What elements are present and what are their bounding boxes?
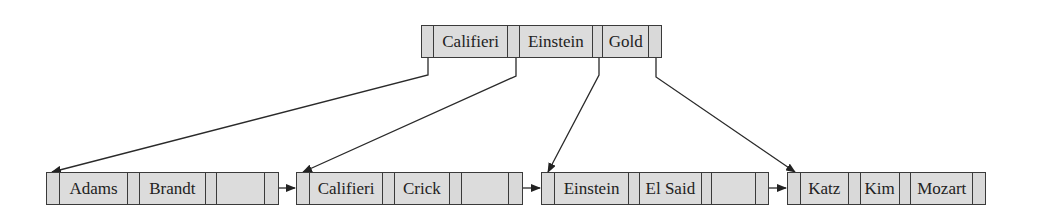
leaf-2-key-2: Crick bbox=[395, 173, 450, 204]
root-pointer-edge-2 bbox=[303, 50, 516, 172]
pointer-cell bbox=[206, 173, 217, 204]
pointer-cell bbox=[593, 26, 604, 57]
root-key-1: Califieri bbox=[434, 26, 508, 57]
leaf-1-key-2: Brandt bbox=[140, 173, 205, 204]
pointer-cell bbox=[788, 173, 801, 204]
b-plus-tree-diagram: Califieri Einstein Gold Adams Brandt Cal… bbox=[0, 0, 1038, 222]
leaf-node-3: Einstein El Said bbox=[541, 172, 769, 205]
leaf-node-1: Adams Brandt bbox=[46, 172, 279, 205]
root-key-3: Gold bbox=[603, 26, 649, 57]
pointer-cell bbox=[542, 173, 555, 204]
leaf-node-4: Katz Kim Mozart bbox=[787, 172, 986, 205]
root-pointer-edge-1 bbox=[52, 50, 428, 172]
leaf-3-key-2: El Said bbox=[640, 173, 701, 204]
pointer-cell bbox=[702, 173, 713, 204]
leaf-2-key-1: Califieri bbox=[310, 173, 383, 204]
next-pointer-cell bbox=[973, 173, 985, 204]
pointer-cell bbox=[649, 26, 661, 57]
leaf-3-key-1: Einstein bbox=[555, 173, 629, 204]
leaf-2-key-3 bbox=[462, 173, 510, 204]
pointer-cell bbox=[450, 173, 462, 204]
pointer-cell bbox=[297, 173, 310, 204]
pointer-cell bbox=[900, 173, 912, 204]
leaf-4-key-1: Katz bbox=[801, 173, 849, 204]
leaf-1-key-3 bbox=[217, 173, 266, 204]
leaf-4-key-2: Kim bbox=[861, 173, 900, 204]
leaf-3-key-3 bbox=[712, 173, 756, 204]
pointer-cell bbox=[422, 26, 434, 57]
leaf-1-key-1: Adams bbox=[60, 173, 128, 204]
root-node: Califieri Einstein Gold bbox=[421, 25, 662, 58]
leaf-4-key-3: Mozart bbox=[911, 173, 973, 204]
next-pointer-cell bbox=[509, 173, 522, 204]
pointer-cell bbox=[849, 173, 861, 204]
pointer-cell bbox=[47, 173, 60, 204]
root-pointer-edge-4 bbox=[656, 50, 795, 172]
next-pointer-cell bbox=[265, 173, 278, 204]
root-key-2: Einstein bbox=[520, 26, 592, 57]
leaf-node-2: Califieri Crick bbox=[296, 172, 523, 205]
pointer-cell bbox=[508, 26, 520, 57]
next-pointer-cell bbox=[756, 173, 768, 204]
root-pointer-edge-3 bbox=[548, 50, 599, 172]
pointer-cell bbox=[128, 173, 140, 204]
pointer-cell bbox=[383, 173, 395, 204]
pointer-cell bbox=[629, 173, 640, 204]
